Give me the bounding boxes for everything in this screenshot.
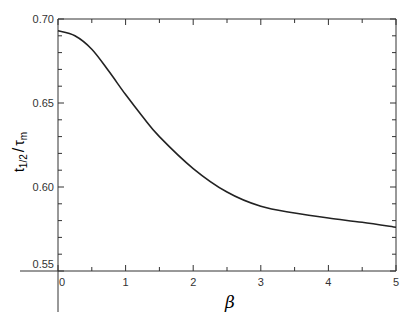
y-tick-label: 0.70	[33, 13, 54, 25]
y-axis-label: t1/2/τm	[10, 132, 29, 172]
axes: 0123450.550.600.650.70	[20, 13, 399, 312]
x-tick-label: 1	[123, 276, 129, 288]
x-tick-label: 2	[190, 276, 196, 288]
svg-text:t1/2/τm: t1/2/τm	[10, 132, 29, 172]
x-tick-label: 5	[393, 276, 399, 288]
x-axis-label: β	[224, 292, 235, 312]
x-tick-label: 3	[258, 276, 264, 288]
y-tick-label: 0.65	[33, 97, 54, 109]
data-line	[58, 31, 396, 228]
y-tick-label: 0.60	[33, 181, 54, 193]
x-tick-label: 0	[59, 276, 65, 288]
chart: 0123450.550.600.650.70 β t1/2/τm	[0, 0, 409, 320]
x-tick-label: 4	[325, 276, 331, 288]
y-tick-label: 0.55	[33, 258, 54, 270]
